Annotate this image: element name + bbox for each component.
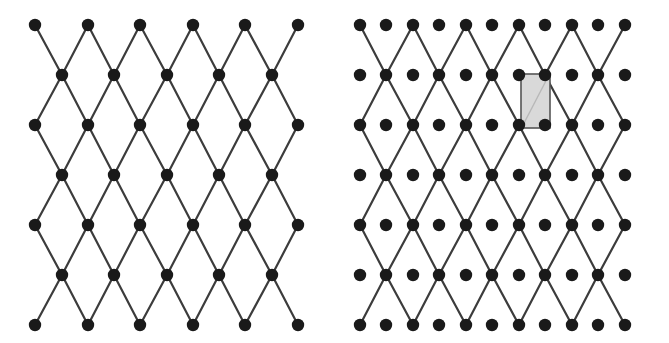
lattice-node [433,269,445,281]
lattice-node [592,319,604,331]
lattice-edge [245,125,272,175]
lattice-edge [360,225,386,275]
lattice-edge [114,175,140,225]
lattice-node [592,169,604,181]
lattice-edge [360,275,386,325]
lattice-edge [572,175,598,225]
lattice-edge [62,75,88,125]
lattice-node [292,319,304,331]
lattice-node [239,219,251,231]
lattice-node [29,19,41,31]
lattice-edge [572,125,598,175]
lattice-edge [140,175,167,225]
lattice-edge [572,75,598,125]
lattice-edge [272,125,298,175]
lattice-edge [598,175,625,225]
lattice-edge [62,275,88,325]
lattice-edge [245,225,272,275]
lattice-edge [386,225,413,275]
lattice-edge [519,225,545,275]
lattice-edge [219,125,245,175]
lattice-node [134,119,146,131]
lattice-node [460,69,472,81]
lattice-node [566,169,578,181]
lattice-edge [492,275,519,325]
lattice-node [354,219,366,231]
lattice-node [292,219,304,231]
lattice-node [592,119,604,131]
lattice-edge [492,175,519,225]
lattice-node [380,19,392,31]
lattice-node [460,269,472,281]
lattice-edge [492,225,519,275]
lattice-edge [245,25,272,75]
lattice-edge [386,125,413,175]
lattice-node [213,269,225,281]
lattice-node [619,319,631,331]
lattice-node [82,319,94,331]
lattice-edge [545,225,572,275]
lattice-node [29,119,41,131]
lattice-node [407,169,419,181]
lattice-node [619,119,631,131]
lattice-node [592,219,604,231]
lattice-node [187,19,199,31]
lattice-node [486,169,498,181]
lattice-edge [140,275,167,325]
lattice-node [433,169,445,181]
lattice-node [619,69,631,81]
lattice-node [380,269,392,281]
lattice-edge [413,125,439,175]
lattice-edge [35,225,62,275]
lattice-node [513,169,525,181]
lattice-node [539,269,551,281]
lattice-edge [88,175,114,225]
lattice-edge [545,25,572,75]
lattice-edge [62,225,88,275]
lattice-node [539,219,551,231]
lattice-node [433,219,445,231]
lattice-edge [439,25,466,75]
lattice-edge [193,225,219,275]
lattice-node [213,69,225,81]
lattice-edge [219,275,245,325]
lattice-node [134,219,146,231]
lattice-edge [35,175,62,225]
lattice-edge [386,75,413,125]
lattice-node [619,269,631,281]
lattice-node [566,269,578,281]
lattice-edge [572,225,598,275]
lattice-edge [386,175,413,225]
lattice-edge [245,175,272,225]
lattice-node [460,319,472,331]
lattice-node [82,19,94,31]
lattice-edge [167,175,193,225]
lattice-edge [219,25,245,75]
lattice-node [566,319,578,331]
lattice-edge [140,225,167,275]
lattice-edge [598,75,625,125]
lattice-node [354,319,366,331]
lattice-edge [439,275,466,325]
lattice-node [513,269,525,281]
lattice-edge [466,75,492,125]
lattice-node [108,69,120,81]
lattice-edge [413,175,439,225]
lattice-node [619,219,631,231]
lattice-edge [193,75,219,125]
lattice-node [566,19,578,31]
lattice-node [513,69,525,81]
lattice-node [539,169,551,181]
lattice-edge [360,25,386,75]
left-lattice-nodes [29,19,304,331]
lattice-node [407,269,419,281]
lattice-edge [413,275,439,325]
lattice-node [266,169,278,181]
lattice-node [56,169,68,181]
lattice-edge [439,125,466,175]
lattice-node [56,69,68,81]
lattice-node [292,19,304,31]
lattice-node [380,69,392,81]
lattice-edge [88,125,114,175]
lattice-edge [272,225,298,275]
